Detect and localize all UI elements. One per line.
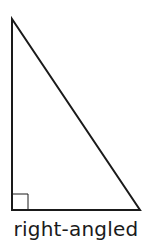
figure-caption: right-angled <box>0 217 149 241</box>
right-angle-marker-icon <box>12 194 28 210</box>
triangle-shape <box>12 19 140 210</box>
right-angled-triangle-diagram <box>0 0 149 244</box>
